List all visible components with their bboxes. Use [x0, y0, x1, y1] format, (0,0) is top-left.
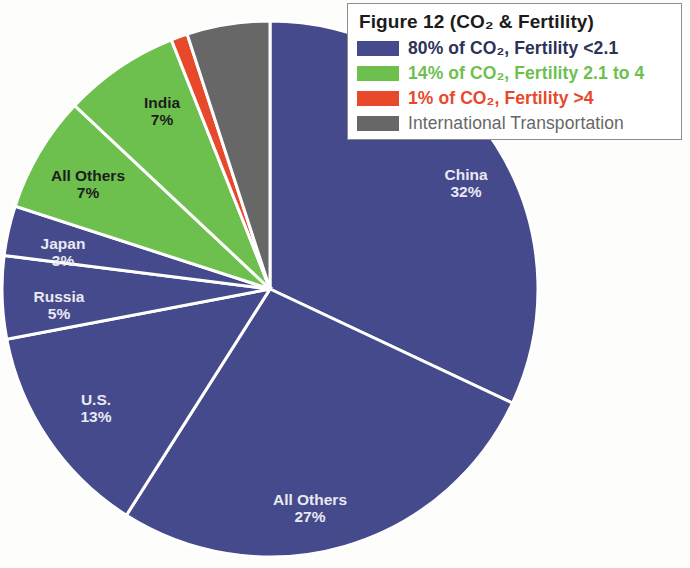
- legend-swatch-blue: [357, 41, 399, 56]
- legend-item-co2-fertility-over-4[interactable]: 1% of CO₂, Fertility >4: [357, 86, 673, 111]
- legend-item-international-transportation[interactable]: International Transportation: [357, 111, 673, 136]
- legend-label-gray: International Transportation: [408, 113, 624, 134]
- legend-swatch-green: [357, 66, 399, 81]
- pie-slice-label: U.S.13%: [80, 391, 111, 425]
- legend-title: Figure 12 (CO₂ & Fertility): [359, 11, 673, 33]
- legend-swatch-gray: [357, 116, 399, 131]
- legend-swatch-red: [357, 91, 399, 106]
- legend-label-green: 14% of CO₂, Fertility 2.1 to 4: [408, 63, 644, 84]
- legend-item-co2-fertility-2-1-to-4[interactable]: 14% of CO₂, Fertility 2.1 to 4: [357, 61, 673, 86]
- legend-item-co2-fertility-under-2-1[interactable]: 80% of CO₂, Fertility <2.1: [357, 36, 673, 61]
- pie-slice-label: China32%: [444, 166, 487, 200]
- figure-12-pie-chart: China32%All Others27%U.S.13%Russia5%Japa…: [0, 0, 690, 568]
- legend-box: Figure 12 (CO₂ & Fertility) 80% of CO₂, …: [347, 3, 682, 140]
- legend-label-blue: 80% of CO₂, Fertility <2.1: [408, 38, 618, 59]
- legend-label-red: 1% of CO₂, Fertility >4: [408, 88, 594, 109]
